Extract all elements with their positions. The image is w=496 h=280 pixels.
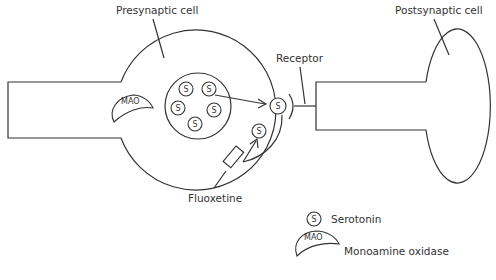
synapse-diagram: S S S S S S S S MAO MAO: [0, 0, 496, 280]
svg-text:S: S: [311, 215, 316, 224]
legend-serotonin-label: Serotonin: [331, 213, 381, 225]
postsynaptic-cell-outline: [316, 29, 490, 183]
svg-text:S: S: [206, 85, 211, 94]
svg-text:MAO: MAO: [304, 233, 323, 242]
legend-mao-label: Monoamine oxidase: [344, 245, 449, 257]
svg-text:S: S: [192, 120, 197, 129]
presynaptic-leader: [153, 19, 164, 58]
svg-text:S: S: [256, 127, 261, 136]
fluoxetine-blocker: [223, 146, 244, 168]
receptor-label: Receptor: [276, 52, 323, 64]
receptor-leader: [300, 67, 305, 104]
presynaptic-cell-outline: [8, 30, 276, 190]
postsynaptic-label: Postsynaptic cell: [395, 4, 483, 16]
svg-text:S: S: [211, 106, 216, 115]
svg-text:MAO: MAO: [121, 97, 140, 106]
svg-text:S: S: [275, 102, 280, 111]
fluoxetine-label: Fluoxetine: [188, 192, 242, 204]
postsynaptic-leader: [434, 19, 449, 55]
presynaptic-label: Presynaptic cell: [116, 4, 198, 16]
receptor-cup: [289, 94, 293, 119]
s-label: S: [183, 85, 188, 94]
svg-text:S: S: [175, 104, 180, 113]
